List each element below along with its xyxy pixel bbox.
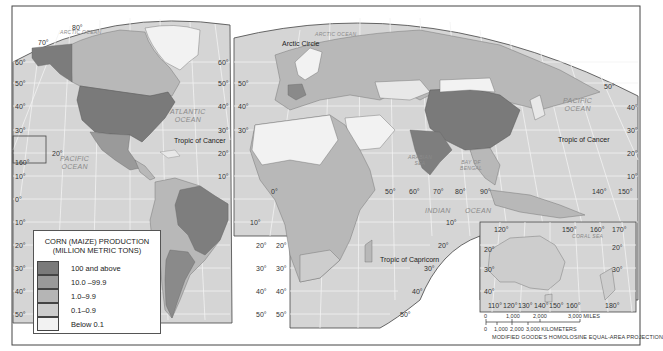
legend-item: Below 0.1 [37,317,157,331]
lat-label: 50° [400,311,411,318]
lat-label: 30° [218,127,229,134]
lon-label: 170° [612,226,626,233]
lat-label: 10° [627,173,638,180]
legend-item: 10.0 –99.9 [37,275,157,289]
lon-label: 150° [562,226,576,233]
lat-label: 20° [627,150,638,157]
arctic-circle-label: Arctic Circle [282,40,319,47]
lon-label: 0° [271,188,278,195]
legend-swatch [37,303,59,317]
legend-label: Below 0.1 [71,320,104,329]
lat-label: 40° [218,103,229,110]
legend-title-line1: CORN (MAIZE) PRODUCTION [34,237,160,246]
lon-label: 50° [385,188,396,195]
tropic-of-cancer-label-left: Tropic of Cancer [174,137,225,144]
lat-label: 0° [15,196,22,203]
lat-label: 30° [612,266,623,273]
lat-label: 20° [52,150,63,157]
lon-label: 130° [518,302,532,309]
lat-label: 30° [627,127,638,134]
arctic-ocean-label-right: ARCTIC OCEAN [315,32,356,38]
lat-label: 10° [218,173,229,180]
lat-label: 20° [218,150,229,157]
lat-label: 20° [15,242,26,249]
lat-label: 50° [218,80,229,87]
legend-title: CORN (MAIZE) PRODUCTION (MILLION METRIC … [34,237,160,256]
legend-swatch [37,275,59,289]
tropic-of-cancer-label-right: Tropic of Cancer [558,136,609,143]
lon-label: 110° [488,302,502,309]
scale-km-2000: 2,000 [510,326,524,332]
lon-label: 140° [592,188,606,195]
legend-item: 0.1–0.9 [37,303,157,317]
indian-ocean-label-2: OCEAN [465,207,491,215]
lat-label: 20° [612,244,623,251]
lat-label: 30° [276,265,287,272]
pacific-ocean-label-left: PACIFIC OCEAN [60,155,89,170]
lat-label: 30° [15,127,26,134]
lat-label: 50° [238,80,249,87]
lat-label: 30° [484,266,495,273]
indian-ocean-label-1: INDIAN [425,207,451,215]
coral-sea-label: CORAL SEA [572,234,603,240]
lat-label: 40° [238,103,249,110]
legend-swatch [37,261,59,275]
lat-label: 40° [15,103,26,110]
lat-label: 20° [438,242,449,249]
lat-label: 40° [15,288,26,295]
lat-label: 40° [412,288,423,295]
pacific-ocean-label-right: PACIFIC OCEAN [563,97,592,112]
legend-label: 100 and above [71,264,121,273]
scale-miles-0: 0 [484,313,487,319]
lon-label: 140° [534,302,548,309]
bay-of-bengal-label: BAY OF BENGAL [460,160,482,171]
lat-label: 160° [15,159,29,166]
lon-label: 60° [409,188,420,195]
legend-swatch [37,289,59,303]
lat-label: 50° [604,83,615,90]
legend-label: 10.0 –99.9 [71,278,106,287]
lat-label: 30° [424,265,435,272]
scale-km-1000: 1,000 [494,326,508,332]
lon-label: 70° [433,188,444,195]
lon-label: 160° [566,302,580,309]
lat-label: 30° [238,127,249,134]
lat-label: 20° [484,246,495,253]
lat-label: 50° [15,80,26,87]
arabian-sea-label: ARABIAN SEA [408,155,432,166]
scale-miles-3000: 3,000 MILES [568,313,600,319]
lat-label: 10° [250,219,261,226]
legend-swatch [37,317,59,331]
lat-label: 10° [446,219,457,226]
lon-label: 120° [503,302,517,309]
lat-label: 70° [38,39,49,46]
lat-label: 50° [15,311,26,318]
lat-label: 30° [256,265,267,272]
legend: CORN (MAIZE) PRODUCTION (MILLION METRIC … [33,230,161,334]
lon-label: 120° [494,226,508,233]
lon-label: 150° [618,188,632,195]
legend-label: 0.1–0.9 [71,306,96,315]
tropic-of-capricorn-label: Tropic of Capricorn [380,256,439,263]
lon-label: 160° [590,226,604,233]
scale-miles-1000: 1,000 [506,313,520,319]
lat-label: 30° [15,265,26,272]
scale-miles-2000: 2,000 [533,313,547,319]
lat-label: 10° [15,219,26,226]
lat-label: 10° [15,173,26,180]
lat-label: 60° [218,59,229,66]
lon-label: 150° [549,302,563,309]
projection-label: MODIFIED GOODE'S HOMOLOSINE EQUAL-AREA P… [492,334,663,340]
lon-label: 80° [455,188,466,195]
lon-label: 180° [605,302,619,309]
legend-item: 1.0–9.9 [37,289,157,303]
lat-label: 50° [276,311,287,318]
lat-label: 80° [72,24,83,31]
legend-label: 1.0–9.9 [71,292,96,301]
lat-label: 40° [256,288,267,295]
lon-label: 90° [480,188,491,195]
lat-label: 40° [484,288,495,295]
legend-title-line2: (MILLION METRIC TONS) [34,246,160,255]
atlantic-ocean-label: ATLANTIC OCEAN [170,108,206,123]
scale-km-0: 0 [484,326,487,332]
